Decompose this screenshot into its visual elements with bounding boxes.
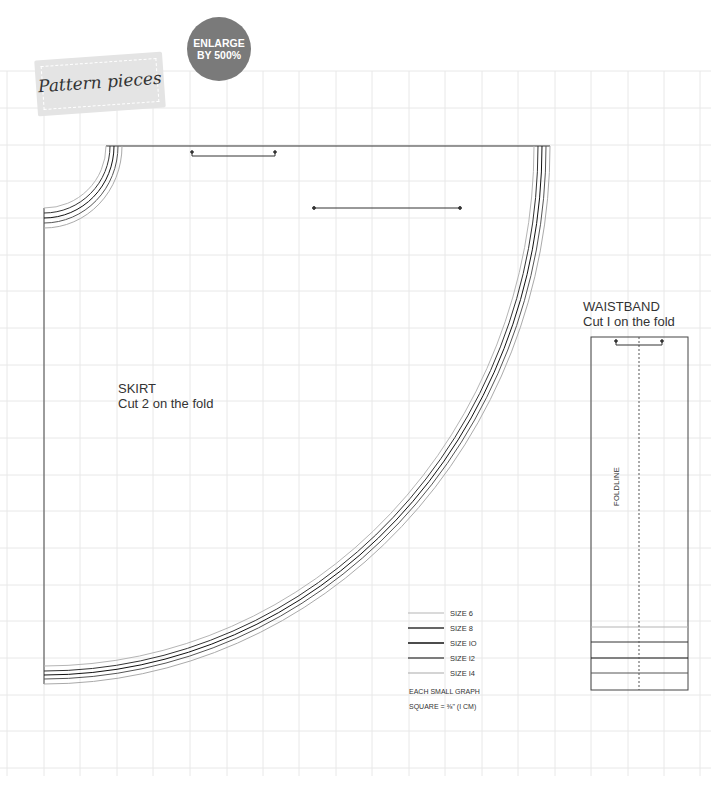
pattern-drawing <box>0 0 711 788</box>
legend-size-8: SIZE 8 <box>450 624 473 633</box>
waistband-instruction: Cut I on the fold <box>583 314 675 329</box>
scale-note-line2: SQUARE = ⅜" (I CM) <box>409 703 476 710</box>
legend-lines <box>408 613 444 673</box>
pattern-pieces-tag: Pattern pieces <box>34 52 166 117</box>
scale-note-line1: EACH SMALL GRAPH <box>409 688 480 695</box>
foldline-label: FOLDLINE <box>612 467 621 506</box>
waistband-name: WAISTBAND <box>583 299 675 314</box>
waistband-piece <box>591 337 688 690</box>
skirt-label: SKIRT Cut 2 on the fold <box>118 381 213 411</box>
skirt-piece <box>44 146 550 684</box>
skirt-name: SKIRT <box>118 381 213 396</box>
waistband-label: WAISTBAND Cut I on the fold <box>583 299 675 329</box>
skirt-instruction: Cut 2 on the fold <box>118 396 213 411</box>
enlarge-badge: ENLARGE BY 500% <box>187 17 251 81</box>
grain-line <box>313 207 462 210</box>
fold-bracket <box>191 151 277 156</box>
badge-line1: ENLARGE <box>193 37 244 49</box>
legend-size-6: SIZE 6 <box>450 609 473 618</box>
legend-size-10: SIZE IO <box>450 639 477 648</box>
legend-size-12: SIZE I2 <box>450 654 475 663</box>
badge-line2: BY 500% <box>193 49 244 61</box>
legend-size-14: SIZE I4 <box>450 669 475 678</box>
